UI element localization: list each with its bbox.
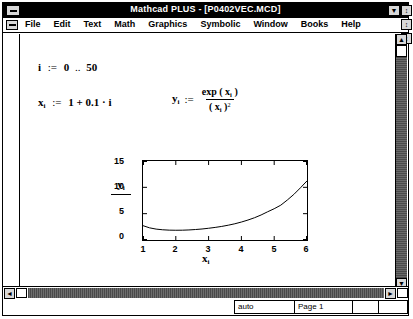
scroll-left-button[interactable]: ◄ (4, 288, 15, 299)
x-tick-6: 6 (299, 244, 313, 254)
vertical-scroll-trough[interactable] (396, 45, 407, 278)
scroll-right-button[interactable]: ► (385, 288, 396, 299)
menu-item-file[interactable]: File (25, 19, 41, 29)
title-bar: Mathcad PLUS - [P0402VEC.MCD] (3, 3, 408, 18)
y-var-subscript: i (178, 98, 180, 106)
fraction-numerator: exp ( xi ) (199, 86, 241, 99)
assign-operator: := (48, 96, 65, 108)
range-operator: .. (72, 61, 84, 73)
menu-item-symbolic[interactable]: Symbolic (200, 19, 240, 29)
status-page-field: Page 1 (294, 300, 352, 314)
y-fraction: exp ( xi ) ( xi )2 (199, 86, 241, 112)
numerator-close: ) (232, 86, 238, 97)
y-tick-15: 15 (102, 156, 124, 166)
x-tick-1: 1 (136, 244, 150, 254)
data-curve (143, 181, 307, 230)
worksheet-canvas[interactable]: i := 0 .. 50 xi := 1 + 0.1 · i yi := exp… (19, 34, 387, 289)
menu-item-text[interactable]: Text (84, 19, 102, 29)
triangle-left-icon: ◄ (6, 290, 13, 297)
x-var-subscript: i (44, 102, 46, 110)
xy-plot[interactable]: y_i = exp(x_i)/(x_i)^2yi xi 15 10 5 0 1 … (106, 154, 330, 274)
document-restore-button[interactable]: ↕ (401, 19, 412, 30)
up-down-arrow-icon: ↕ (405, 21, 409, 28)
scrollbar-corner (397, 288, 408, 298)
x-expression: 1 + 0.1 · i (68, 96, 111, 108)
x-tick-5: 5 (267, 244, 281, 254)
x-vector-definition[interactable]: xi := 1 + 0.1 · i (38, 96, 112, 110)
x-label-subscript: i (208, 258, 210, 266)
status-field-4 (378, 300, 408, 314)
scroll-up-button[interactable]: ▲ (396, 34, 407, 45)
fraction-denominator: ( xi )2 (206, 99, 234, 113)
system-menu-dash-icon (10, 10, 17, 12)
x-tick-2: 2 (168, 244, 182, 254)
range-start: 0 (64, 61, 70, 73)
plot-x-axis-label: xi (202, 252, 209, 266)
menu-item-edit[interactable]: Edit (54, 19, 71, 29)
range-variable-definition[interactable]: i := 0 .. 50 (38, 61, 97, 73)
horizontal-scroll-thumb[interactable] (16, 288, 27, 298)
menu-item-books[interactable]: Books (301, 19, 329, 29)
system-menu-dash-icon (9, 24, 16, 26)
vertical-scrollbar[interactable]: ▲ ▼ (395, 34, 407, 289)
menu-item-window[interactable]: Window (253, 19, 287, 29)
status-field-3 (352, 300, 378, 314)
x-tick-4: 4 (234, 244, 248, 254)
vertical-scroll-thumb[interactable] (396, 45, 407, 57)
plot-frame (142, 160, 308, 241)
app-system-menu-button[interactable] (6, 5, 20, 16)
y-vector-definition[interactable]: yi := exp ( xi ) ( xi )2 (172, 86, 241, 112)
triangle-up-icon: ▲ (398, 36, 405, 43)
mathcad-window: Mathcad PLUS - [P0402VEC.MCD] ▼ ↕ File E… (2, 2, 409, 316)
x-tick-3: 3 (201, 244, 215, 254)
y-tick-5: 5 (102, 206, 124, 216)
menu-item-graphics[interactable]: Graphics (148, 19, 187, 29)
document-system-menu-button[interactable] (6, 20, 18, 30)
y-tick-10: 10 (102, 181, 124, 191)
status-bar: auto Page 1 (3, 300, 408, 315)
up-down-arrow-icon: ↕ (405, 7, 409, 14)
minimize-button[interactable]: ▼ (388, 5, 400, 16)
restore-button[interactable]: ↕ (401, 5, 412, 16)
axis-ticks (143, 161, 307, 240)
menu-bar: File Edit Text Math Graphics Symbolic Wi… (3, 18, 408, 33)
assign-operator: := (184, 93, 193, 105)
window-title: Mathcad PLUS - [P0402VEC.MCD] (3, 4, 408, 14)
denominator-text: ( x (209, 101, 220, 112)
horizontal-scroll-trough[interactable] (28, 288, 384, 298)
menu-item-help[interactable]: Help (341, 19, 361, 29)
menu-item-math[interactable]: Math (114, 19, 135, 29)
menu-items: File Edit Text Math Graphics Symbolic Wi… (25, 19, 361, 29)
assign-operator: := (44, 61, 61, 73)
numerator-text: exp ( x (202, 86, 230, 97)
y-tick-0: 0 (102, 231, 124, 241)
horizontal-scrollbar[interactable]: ◄ ► (3, 286, 408, 299)
plot-canvas (143, 161, 307, 240)
status-auto-field: auto (234, 300, 294, 314)
range-end: 50 (86, 61, 97, 73)
denominator-exponent: 2 (227, 101, 230, 108)
triangle-right-icon: ► (387, 290, 394, 297)
chevron-down-icon: ▼ (391, 7, 398, 14)
trace-rule (111, 194, 131, 195)
range-var-name: i (38, 61, 41, 73)
